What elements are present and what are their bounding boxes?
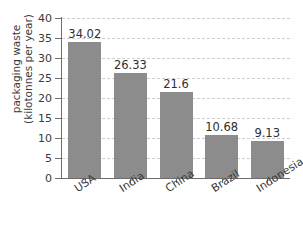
plot-area: 34.0226.3321.610.689.13 (62, 18, 290, 178)
y-axis-tick-label: 15 (6, 112, 52, 125)
y-axis-tick-mark (55, 158, 62, 159)
y-axis-tick-mark (55, 38, 62, 39)
y-axis-tick-labels: 0510152025303540 (0, 0, 52, 233)
bar-value-label: 10.68 (205, 120, 238, 134)
y-axis-tick-label: 40 (6, 12, 52, 25)
gridline (62, 18, 290, 19)
y-axis-tick-mark (55, 58, 62, 59)
bar[interactable] (114, 73, 147, 178)
y-axis-tick-mark (55, 78, 62, 79)
bar-value-label: 21.6 (163, 77, 189, 91)
y-axis-tick-mark (55, 118, 62, 119)
bar[interactable] (160, 92, 193, 178)
y-axis-tick-mark (55, 178, 62, 179)
bar-value-label: 34.02 (68, 27, 101, 41)
y-axis-tick-mark (55, 98, 62, 99)
y-axis-tick-label: 25 (6, 72, 52, 85)
y-axis-tick-label: 0 (6, 172, 52, 185)
bar-chart: packaging waste (kilotonnes per year) 05… (0, 0, 303, 233)
bar-value-label: 26.33 (114, 58, 147, 72)
y-axis-tick-label: 35 (6, 32, 52, 45)
y-axis-tick-label: 10 (6, 132, 52, 145)
y-axis-tick-mark (55, 138, 62, 139)
y-axis-tick-label: 20 (6, 92, 52, 105)
y-axis-tick-mark (55, 18, 62, 19)
bar-value-label: 9.13 (254, 126, 280, 140)
bar[interactable] (68, 42, 101, 178)
y-axis-tick-label: 30 (6, 52, 52, 65)
y-axis-tick-label: 5 (6, 152, 52, 165)
